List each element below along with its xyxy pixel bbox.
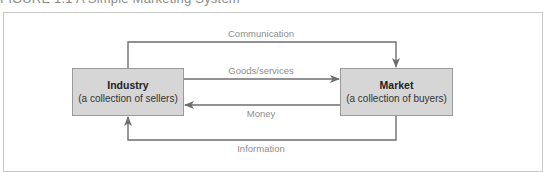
industry-description: (a collection of sellers) — [78, 92, 177, 105]
industry-box: Industry (a collection of sellers) — [72, 68, 184, 116]
market-box: Market (a collection of buyers) — [340, 68, 453, 116]
money-label: Money — [247, 108, 276, 119]
communication-label: Communication — [228, 28, 294, 39]
information-label: Information — [237, 143, 285, 154]
market-name: Market — [380, 79, 414, 92]
market-description: (a collection of buyers) — [346, 92, 447, 105]
industry-name: Industry — [107, 79, 148, 92]
goods-services-label: Goods/services — [228, 65, 293, 76]
information-arrow — [128, 116, 396, 140]
